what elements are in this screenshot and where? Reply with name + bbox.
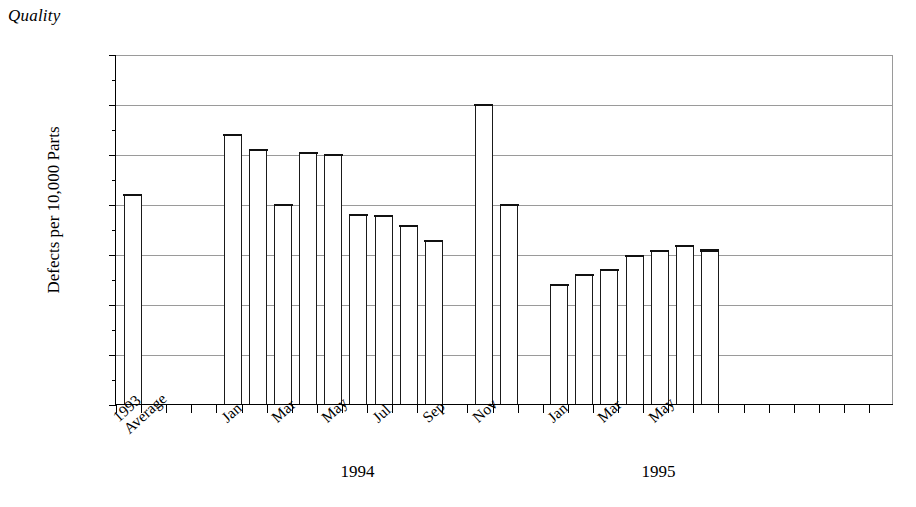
y-tick-mark [109,355,116,356]
x-tick-mark [844,405,845,413]
bar [274,204,292,404]
bar [400,225,418,404]
bar [600,269,618,404]
x-tick-mark [367,405,368,413]
bar [500,204,518,404]
y-tick-mark [109,255,116,256]
y-tick-mark [109,305,116,306]
year-group-label: 1994 [297,462,417,482]
bar [299,152,317,404]
y-tick-mark-minor [112,80,116,81]
bar [249,149,267,404]
x-tick-mark [417,405,418,413]
x-tick-mark [166,405,167,413]
y-tick-mark-minor [112,230,116,231]
x-tick-mark [769,405,770,413]
y-axis-title: Defects per 10,000 Parts [44,60,64,360]
gridline [116,55,893,56]
bar [626,255,644,404]
y-tick-mark-minor [112,180,116,181]
year-group-label: 1995 [599,462,719,482]
chart-title: Quality [8,6,60,26]
bar [425,240,443,404]
bar [550,284,568,404]
x-tick-mark [643,405,644,413]
bar [349,214,367,404]
plot-area: 05001,0001,5002,0002,5003,0003,500 [115,55,893,405]
bar [224,134,242,404]
x-tick-mark [718,405,719,413]
bar [124,194,142,404]
x-tick-mark [744,405,745,413]
y-tick-mark [109,155,116,156]
x-tick-mark [819,405,820,413]
y-tick-mark [109,205,116,206]
bar [651,250,669,404]
y-tick-mark [109,105,116,106]
x-tick-mark [191,405,192,413]
x-tick-mark [794,405,795,413]
bar [676,245,694,404]
x-tick-mark [518,405,519,413]
gridline [116,105,893,106]
x-tick-mark [869,405,870,413]
bar [324,154,342,404]
bar [375,215,393,404]
y-tick-mark-minor [112,280,116,281]
bar [701,250,719,405]
y-tick-mark-minor [112,130,116,131]
x-tick-mark [693,405,694,413]
bar [575,274,593,404]
y-tick-mark-minor [112,380,116,381]
quality-defects-bar-chart: Quality Defects per 10,000 Parts 05001,0… [0,0,916,507]
bar [475,104,493,404]
y-tick-mark-minor [112,330,116,331]
y-tick-mark [109,55,116,56]
plot-right-border [892,55,893,404]
